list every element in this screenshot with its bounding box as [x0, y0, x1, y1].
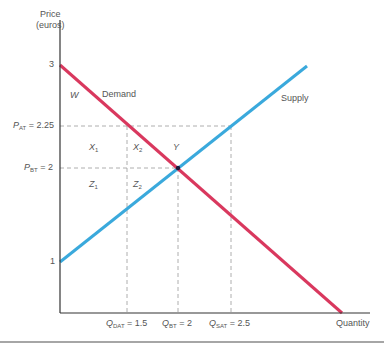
q-bt-value: = 2: [177, 318, 192, 328]
q-dat-value: = 1.5: [125, 318, 148, 328]
q-bt-label: QBT = 2: [162, 319, 192, 329]
area-w-label: W: [70, 91, 79, 100]
area-z1-label: Z1: [89, 180, 98, 190]
p-bt-sub: BT: [30, 167, 38, 173]
q-dat-sub: DAT: [113, 323, 125, 329]
q-dat-main: Q: [106, 318, 113, 328]
y-axis-label: Price (euros): [36, 10, 65, 30]
q-sat-label: QSAT = 2.5: [209, 319, 250, 329]
q-bt-sub: BT: [169, 323, 177, 329]
x-axis-label: Quantity: [336, 319, 370, 328]
area-z1-sub: 1: [95, 184, 98, 190]
y-axis-label-line1: Price: [36, 10, 65, 19]
q-sat-main: Q: [209, 318, 216, 328]
area-z2-sub: 2: [139, 184, 142, 190]
area-x2-label: X2: [133, 143, 142, 153]
area-z2-label: Z2: [133, 180, 142, 190]
equilibrium-point: [176, 166, 180, 170]
y-tick-1: 1: [50, 257, 55, 266]
supply-curve: [60, 66, 307, 262]
demand-label: Demand: [102, 90, 136, 99]
area-x1-label: X1: [89, 143, 98, 153]
p-at-value: = 2.25: [26, 120, 54, 130]
p-bt-label: PBT = 2: [24, 163, 53, 173]
chart-canvas: [0, 0, 384, 344]
q-sat-value: = 2.5: [227, 318, 250, 328]
supply-label: Supply: [281, 94, 309, 103]
area-y-label: Y: [173, 143, 179, 152]
area-x1-sub: 1: [95, 147, 98, 153]
reference-lines: [60, 126, 231, 313]
p-at-label: PAT = 2.25: [13, 121, 54, 131]
p-bt-value: = 2: [38, 162, 53, 172]
y-axis-label-line2: (euros): [36, 21, 65, 30]
q-sat-sub: SAT: [216, 323, 227, 329]
area-x2-sub: 2: [139, 147, 142, 153]
q-dat-label: QDAT = 1.5: [106, 319, 147, 329]
q-bt-main: Q: [162, 318, 169, 328]
y-tick-3: 3: [49, 60, 54, 69]
